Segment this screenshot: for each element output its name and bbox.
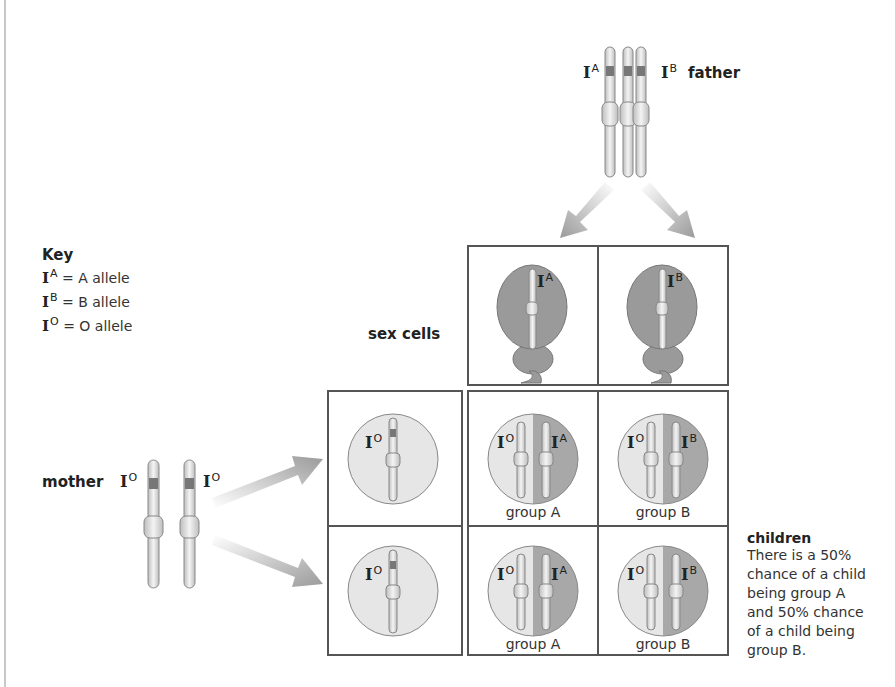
egg-cell-icon bbox=[329, 392, 461, 525]
children-text-line: of a child being bbox=[747, 622, 895, 641]
child-left-allele: IO bbox=[497, 432, 514, 452]
child-left-allele: IO bbox=[627, 432, 644, 452]
blood-group-label: group B bbox=[599, 636, 727, 652]
sperm-cell-b-box: IB bbox=[597, 245, 729, 386]
egg-cell-2-box: IO bbox=[327, 525, 463, 656]
child-cell-r2-c1: IO IA group A bbox=[467, 525, 599, 656]
mother-arrows-icon bbox=[210, 455, 325, 595]
sex-cells-label: sex cells bbox=[368, 325, 440, 343]
children-text-line: group B. bbox=[747, 641, 895, 660]
sperm-allele-label: IA bbox=[537, 271, 553, 291]
mother-label: mother bbox=[42, 473, 103, 491]
key-title: Key bbox=[42, 246, 132, 264]
egg-allele-label: IO bbox=[365, 432, 382, 452]
child-cell-r2-c2: IO IB group B bbox=[597, 525, 729, 656]
children-title: children bbox=[747, 530, 895, 546]
blood-group-label: group A bbox=[469, 504, 597, 520]
egg-cell-icon bbox=[329, 527, 461, 654]
child-left-allele: IO bbox=[497, 564, 514, 584]
child-cell-icon bbox=[469, 527, 597, 654]
father-arrows-icon bbox=[550, 180, 710, 245]
key-item-a: IA = A allele bbox=[42, 264, 132, 288]
sperm-cell-a-box: IA bbox=[467, 245, 599, 386]
father-chromosome-pair-icon bbox=[600, 42, 680, 182]
sperm-cell-icon bbox=[469, 247, 597, 384]
key-panel: Key IA = A allele IB = B allele IO = O a… bbox=[42, 246, 132, 336]
blood-group-label: group A bbox=[469, 636, 597, 652]
blood-group-label: group B bbox=[599, 504, 727, 520]
child-left-allele: IO bbox=[627, 564, 644, 584]
page-margin-line bbox=[4, 0, 6, 687]
children-text-line: being group A bbox=[747, 584, 895, 603]
egg-allele-label: IO bbox=[365, 564, 382, 584]
child-right-allele: IB bbox=[681, 432, 697, 452]
child-right-allele: IB bbox=[681, 564, 697, 584]
sperm-allele-label: IB bbox=[667, 271, 683, 291]
children-text-line: and 50% chance bbox=[747, 603, 895, 622]
cutoff-heading-text bbox=[20, 0, 720, 4]
child-cell-icon bbox=[599, 527, 727, 654]
child-right-allele: IA bbox=[551, 564, 567, 584]
sperm-cell-icon bbox=[599, 247, 727, 384]
key-item-o: IO = O allele bbox=[42, 312, 132, 336]
child-right-allele: IA bbox=[551, 432, 567, 452]
children-text-line: There is a 50% bbox=[747, 546, 895, 565]
father-label: father bbox=[688, 64, 740, 82]
egg-cell-1-box: IO bbox=[327, 390, 463, 527]
child-cell-r1-c1: IO IA group A bbox=[467, 390, 599, 527]
mother-allele-1-label: IO bbox=[120, 471, 137, 491]
mother-chromosome-pair-icon bbox=[143, 458, 203, 593]
father-allele-a-label: IA bbox=[583, 62, 599, 82]
children-panel: children There is a 50% chance of a chil… bbox=[747, 530, 895, 660]
key-item-b: IB = B allele bbox=[42, 288, 132, 312]
children-description: There is a 50% chance of a child being g… bbox=[747, 546, 895, 660]
child-cell-r1-c2: IO IB group B bbox=[597, 390, 729, 527]
children-text-line: chance of a child bbox=[747, 565, 895, 584]
